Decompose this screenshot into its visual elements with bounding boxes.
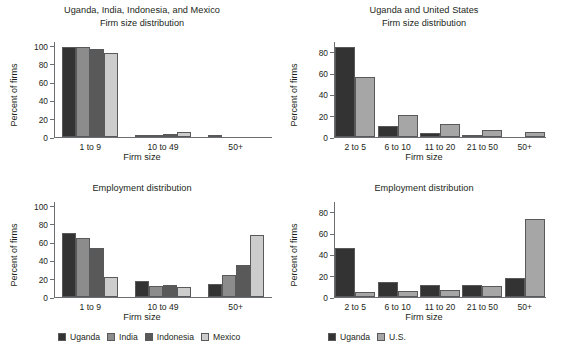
y-axis-tick-label: 0 bbox=[43, 133, 48, 143]
x-axis-category-label: 10 to 49 bbox=[147, 302, 178, 312]
x-axis-line bbox=[54, 297, 272, 298]
bar bbox=[236, 265, 250, 297]
figure-four-panel-bar-charts: Uganda, India, Indonesia, and Mexico Fir… bbox=[0, 0, 563, 356]
bar bbox=[462, 285, 482, 297]
chart-title: Uganda and United States bbox=[288, 4, 560, 17]
legend-swatch-icon bbox=[145, 333, 153, 341]
bar bbox=[177, 287, 191, 297]
y-axis-tick bbox=[50, 64, 54, 65]
bar bbox=[482, 130, 502, 137]
y-axis-tick bbox=[50, 83, 54, 84]
y-axis-tick-label: 20 bbox=[39, 115, 48, 125]
bar bbox=[505, 278, 525, 297]
legend-label: Uganda bbox=[340, 332, 370, 342]
legend-label: U.S. bbox=[389, 332, 406, 342]
y-axis-label: Percent of firms bbox=[9, 63, 19, 126]
x-axis-label: Firm size bbox=[4, 152, 280, 162]
bar bbox=[163, 134, 177, 137]
legend-label: Indonesia bbox=[157, 332, 194, 342]
chart-panel-bottom-right: Employment distribution Percent of firms… bbox=[288, 182, 560, 324]
bar bbox=[76, 238, 90, 297]
y-axis-tick-label: 40 bbox=[39, 256, 48, 266]
y-axis-tick-label: 40 bbox=[39, 96, 48, 106]
y-axis-tick-label: 80 bbox=[319, 48, 328, 58]
y-axis-tick-label: 100 bbox=[34, 42, 48, 52]
bar bbox=[335, 248, 355, 297]
y-axis-tick bbox=[330, 212, 334, 213]
x-axis-label: Firm size bbox=[4, 312, 280, 322]
y-axis-tick-label: 60 bbox=[319, 229, 328, 239]
bar bbox=[104, 53, 118, 137]
y-axis-tick bbox=[330, 74, 334, 75]
bar bbox=[398, 115, 418, 137]
x-axis-category-label: 2 to 5 bbox=[344, 302, 366, 312]
legend-label: India bbox=[119, 332, 138, 342]
chart-title-block: Employment distribution bbox=[288, 182, 560, 195]
chart-subtitle: Firm size distribution bbox=[288, 17, 560, 30]
legend-item: Mexico bbox=[201, 332, 240, 342]
y-axis-tick bbox=[50, 206, 54, 207]
legend-item: Uganda bbox=[58, 332, 100, 342]
bar bbox=[104, 277, 118, 297]
x-axis-line bbox=[334, 297, 546, 298]
legend-swatch-icon bbox=[377, 333, 385, 341]
legend-label: Mexico bbox=[213, 332, 240, 342]
x-axis-label: Firm size bbox=[288, 312, 560, 322]
y-axis-tick-label: 60 bbox=[319, 69, 328, 79]
y-axis-tick bbox=[330, 138, 334, 139]
y-axis-tick-label: 80 bbox=[319, 208, 328, 218]
chart-title-block: Uganda and United States Firm size distr… bbox=[288, 4, 560, 30]
chart-subtitle: Firm size distribution bbox=[4, 17, 280, 30]
y-axis-tick bbox=[50, 101, 54, 102]
x-axis-category-label: 1 to 9 bbox=[80, 142, 102, 152]
x-axis-category-label: 50+ bbox=[518, 142, 533, 152]
y-axis-tick-label: 20 bbox=[319, 112, 328, 122]
y-axis-tick bbox=[50, 138, 54, 139]
chart-title-block: Uganda, India, Indonesia, and Mexico Fir… bbox=[4, 4, 280, 30]
bar bbox=[62, 47, 76, 137]
y-axis-tick bbox=[330, 95, 334, 96]
y-axis-tick-label: 20 bbox=[319, 272, 328, 282]
y-axis-tick-label: 60 bbox=[39, 78, 48, 88]
x-axis-label: Firm size bbox=[288, 152, 560, 162]
chart-panel-bottom-left: Employment distribution Percent of firms… bbox=[4, 182, 280, 324]
y-axis-tick-label: 0 bbox=[323, 293, 328, 303]
y-axis-tick bbox=[50, 298, 54, 299]
y-axis-label: Percent of firms bbox=[289, 63, 299, 126]
legend-swatch-icon bbox=[201, 333, 209, 341]
legend-label: Uganda bbox=[70, 332, 100, 342]
bar bbox=[135, 135, 149, 137]
y-axis-tick bbox=[330, 116, 334, 117]
y-axis-tick-label: 0 bbox=[323, 133, 328, 143]
bar bbox=[208, 135, 222, 137]
x-axis-category-label: 6 to 10 bbox=[384, 302, 410, 312]
y-axis-tick-label: 80 bbox=[39, 60, 48, 70]
bar bbox=[525, 132, 545, 137]
plot-area: 0204060802 to 56 to 1011 to 2021 to 5050… bbox=[334, 42, 546, 138]
bar bbox=[90, 248, 104, 297]
y-axis-label: Percent of firms bbox=[9, 223, 19, 286]
y-axis-tick bbox=[330, 276, 334, 277]
x-axis-category-label: 10 to 49 bbox=[147, 142, 178, 152]
plot-area: 0204060801001 to 910 to 4950+ bbox=[54, 42, 272, 138]
plot-area: 0204060802 to 56 to 1011 to 2021 to 5050… bbox=[334, 202, 546, 298]
y-axis-tick-label: 0 bbox=[43, 293, 48, 303]
legend-item: Indonesia bbox=[145, 332, 194, 342]
bar bbox=[250, 235, 264, 297]
y-axis-tick bbox=[330, 298, 334, 299]
y-axis-tick bbox=[50, 243, 54, 244]
x-axis-category-label: 11 to 20 bbox=[425, 142, 455, 152]
bar bbox=[482, 286, 502, 297]
legend-item: Uganda bbox=[328, 332, 370, 342]
chart-panel-top-left: Uganda, India, Indonesia, and Mexico Fir… bbox=[4, 4, 280, 174]
y-axis-line bbox=[54, 42, 55, 138]
bar bbox=[163, 285, 177, 297]
legend-item: India bbox=[107, 332, 138, 342]
y-axis-tick bbox=[330, 234, 334, 235]
x-axis-category-label: 50+ bbox=[228, 142, 243, 152]
x-axis-category-label: 2 to 5 bbox=[344, 142, 366, 152]
bar bbox=[222, 275, 236, 297]
chart-title: Uganda, India, Indonesia, and Mexico bbox=[4, 4, 280, 17]
bar bbox=[90, 49, 104, 137]
bar bbox=[420, 133, 440, 137]
